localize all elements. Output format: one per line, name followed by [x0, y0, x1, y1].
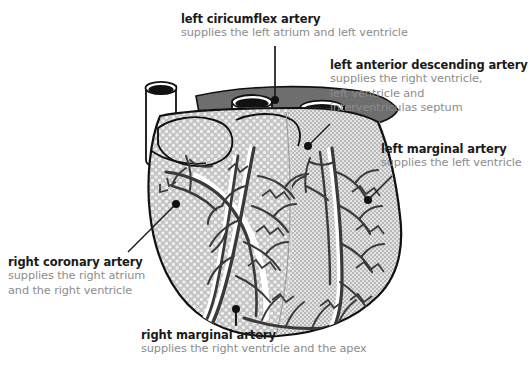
- label-left-marginal-artery: left marginal artery supplies the left v…: [381, 142, 522, 171]
- label-title: right coronary artery: [8, 255, 160, 269]
- label-subtitle: supplies the left atrium and left ventri…: [181, 26, 408, 41]
- label-subtitle-line-2: and the right ventricle: [8, 284, 160, 299]
- label-title: left marginal artery: [381, 142, 522, 156]
- label-subtitle-line-1: supplies the right ventricle,: [330, 72, 528, 87]
- label-title: right marginal artery: [141, 328, 367, 342]
- diagram-canvas: left ciricumflex artery supplies the lef…: [0, 0, 532, 381]
- label-right-marginal-artery: right marginal artery supplies the right…: [141, 328, 367, 357]
- label-left-circumflex-artery: left ciricumflex artery supplies the lef…: [181, 12, 408, 41]
- label-subtitle-line-2: left ventricle and: [330, 87, 528, 102]
- label-left-anterior-descending-artery: left anterior descending artery supplies…: [330, 58, 528, 116]
- label-title: left anterior descending artery: [330, 58, 528, 72]
- label-subtitle: supplies the right ventricle and the ape…: [141, 342, 367, 357]
- label-subtitle: supplies the left ventricle: [381, 156, 522, 171]
- label-title: left ciricumflex artery: [181, 12, 408, 26]
- label-subtitle-line-1: supplies the right atrium: [8, 269, 160, 284]
- label-right-coronary-artery: right coronary artery supplies the right…: [8, 255, 160, 298]
- label-subtitle-line-3: interventriculas septum: [330, 101, 528, 116]
